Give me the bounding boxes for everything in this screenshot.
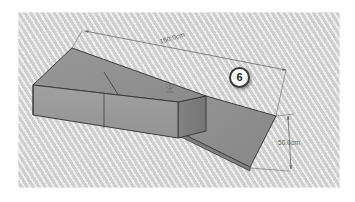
dimension-label-height: 50.0cm xyxy=(278,140,300,147)
dimension-height-extension-top xyxy=(276,114,294,116)
dimension-length-extension-right xyxy=(276,70,286,116)
diagram-canvas: 150.0cm 50.0cm 6 xyxy=(0,0,355,202)
isometric-block-scene xyxy=(0,0,355,202)
dimension-height-extension-bottom xyxy=(250,168,289,171)
dimension-length-extension-left xyxy=(72,31,82,48)
face-marker-icon xyxy=(164,82,176,94)
step-number-badge[interactable]: 6 xyxy=(229,67,250,88)
step-number-badge-label: 6 xyxy=(236,72,242,83)
tall-block-step-face xyxy=(178,96,206,138)
